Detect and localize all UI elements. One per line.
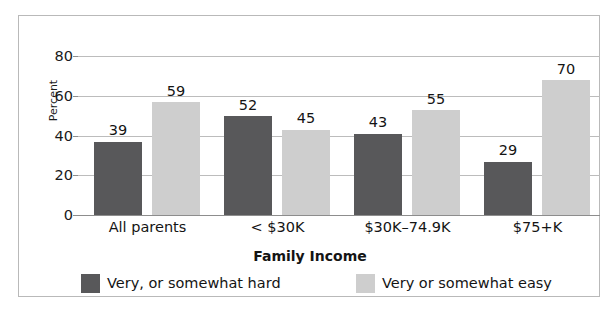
y-tick-label-60: 60 [55, 89, 73, 104]
x-category-label-under-30k: < $30K [218, 220, 337, 235]
bar-easy-all-parents [152, 102, 200, 215]
y-axis-ticks: 80 60 40 20 0 [47, 56, 73, 215]
x-category-label-30k-74-9k: $30K–74.9K [348, 220, 467, 235]
legend-item-easy: Very or somewhat easy [356, 274, 552, 293]
bar-group-30k-74-9k: 43 55 [348, 56, 467, 215]
bar-value-hard-all-parents: 39 [94, 123, 142, 138]
y-tick-label-0: 0 [64, 208, 73, 223]
x-category-label-all-parents: All parents [88, 220, 207, 235]
x-category-label-75k-plus: $75+K [478, 220, 597, 235]
bar-group-all-parents: 39 59 [88, 56, 207, 215]
legend-label-hard: Very, or somewhat hard [107, 276, 281, 291]
y-tick-label-80: 80 [55, 49, 73, 64]
legend-label-easy: Very or somewhat easy [382, 276, 552, 291]
legend-swatch-easy-icon [356, 274, 375, 293]
x-axis-title: Family Income [19, 248, 601, 264]
bar-group-75k-plus: 29 70 [478, 56, 597, 215]
plot-area: 39 59 52 45 43 55 29 70 [78, 56, 600, 215]
x-axis-baseline [78, 215, 600, 216]
bar-value-easy-75k-plus: 70 [542, 62, 590, 77]
bar-hard-75k-plus [484, 162, 532, 215]
chart-frame: Percent 80 60 40 20 0 39 59 [18, 15, 600, 297]
chart-legend: Very, or somewhat hard Very or somewhat … [19, 274, 601, 298]
bar-easy-under-30k [282, 130, 330, 215]
bar-value-hard-under-30k: 52 [224, 98, 272, 113]
bar-value-easy-all-parents: 59 [152, 84, 200, 99]
chart-figure: Percent 80 60 40 20 0 39 59 [0, 0, 614, 309]
legend-swatch-hard-icon [81, 274, 100, 293]
bar-easy-30k-74-9k [412, 110, 460, 215]
bar-group-under-30k: 52 45 [218, 56, 337, 215]
bar-hard-under-30k [224, 116, 272, 215]
legend-item-hard: Very, or somewhat hard [81, 274, 281, 293]
bar-hard-30k-74-9k [354, 134, 402, 215]
bar-value-hard-75k-plus: 29 [484, 143, 532, 158]
bar-value-easy-30k-74-9k: 55 [412, 92, 460, 107]
bar-value-easy-under-30k: 45 [282, 111, 330, 126]
y-tick-label-40: 40 [55, 128, 73, 143]
y-tick-label-20: 20 [55, 168, 73, 183]
bar-easy-75k-plus [542, 80, 590, 215]
bar-value-hard-30k-74-9k: 43 [354, 115, 402, 130]
bar-hard-all-parents [94, 142, 142, 215]
